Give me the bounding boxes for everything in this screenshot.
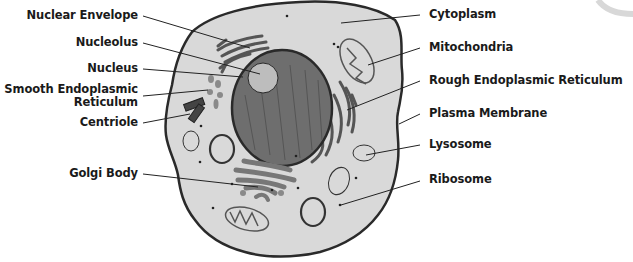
label-text: Mitochondria xyxy=(429,40,513,54)
label-text: Centriole xyxy=(80,115,138,129)
label-lysosome: Lysosome xyxy=(429,138,492,151)
label-text: Rough Endoplasmic Reticulum xyxy=(429,73,623,87)
label-nuclear-envelope: Nuclear Envelope xyxy=(27,9,138,22)
label-rough-er: Rough Endoplasmic Reticulum xyxy=(429,74,623,87)
label-text: Ribosome xyxy=(429,172,492,186)
label-text: Nucleolus xyxy=(76,35,138,49)
label-nucleus: Nucleus xyxy=(87,62,138,75)
label-centriole: Centriole xyxy=(80,116,138,129)
label-smooth-er: Smooth Endoplasmic Reticulum xyxy=(4,83,138,109)
label-mitochondria: Mitochondria xyxy=(429,41,513,54)
corner-circle-decoration xyxy=(598,0,633,14)
cell-diagram: Nuclear Envelope Nucleolus Nucleus Smoot… xyxy=(0,0,633,262)
label-ribosome: Ribosome xyxy=(429,173,492,186)
label-text: Nuclear Envelope xyxy=(27,8,138,22)
label-text: Cytoplasm xyxy=(429,7,496,21)
label-text: Lysosome xyxy=(429,137,492,151)
label-cytoplasm: Cytoplasm xyxy=(429,8,496,21)
lysosome-shape xyxy=(353,145,375,161)
label-text: Plasma Membrane xyxy=(429,106,547,120)
label-nucleolus: Nucleolus xyxy=(76,36,138,49)
label-golgi-body: Golgi Body xyxy=(69,167,138,180)
label-text-line2: Reticulum xyxy=(4,96,138,109)
label-text: Nucleus xyxy=(87,61,138,75)
label-plasma-membrane: Plasma Membrane xyxy=(429,107,547,120)
nucleus-shape xyxy=(232,50,332,166)
nucleolus-shape xyxy=(248,63,278,93)
label-text: Golgi Body xyxy=(69,166,138,180)
